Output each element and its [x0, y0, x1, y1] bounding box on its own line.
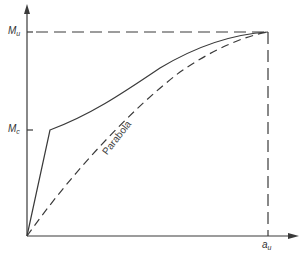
mc-label: Mc	[8, 124, 20, 135]
diagram-canvas	[0, 0, 304, 255]
x-axis-arrow-icon	[288, 233, 299, 239]
au-label: au	[262, 240, 271, 251]
parabola-curve	[27, 32, 268, 236]
actual-curve	[27, 32, 268, 236]
y-axis-arrow-icon	[24, 4, 30, 14]
mu-label: Mu	[8, 26, 20, 37]
